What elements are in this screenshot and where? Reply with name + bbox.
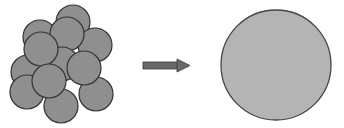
small-particle bbox=[32, 64, 66, 98]
large-particle bbox=[221, 10, 331, 120]
arrow-shaft bbox=[143, 62, 179, 69]
arrow-head bbox=[177, 59, 190, 72]
small-particle bbox=[67, 51, 101, 85]
diagram-canvas bbox=[0, 0, 344, 128]
right-arrow-icon bbox=[143, 59, 190, 72]
coalescence-diagram: Many small particles coalescing into one… bbox=[0, 0, 344, 128]
small-particle bbox=[24, 32, 58, 66]
large-particle-circle bbox=[221, 10, 331, 120]
small-particle-cluster bbox=[10, 5, 113, 123]
